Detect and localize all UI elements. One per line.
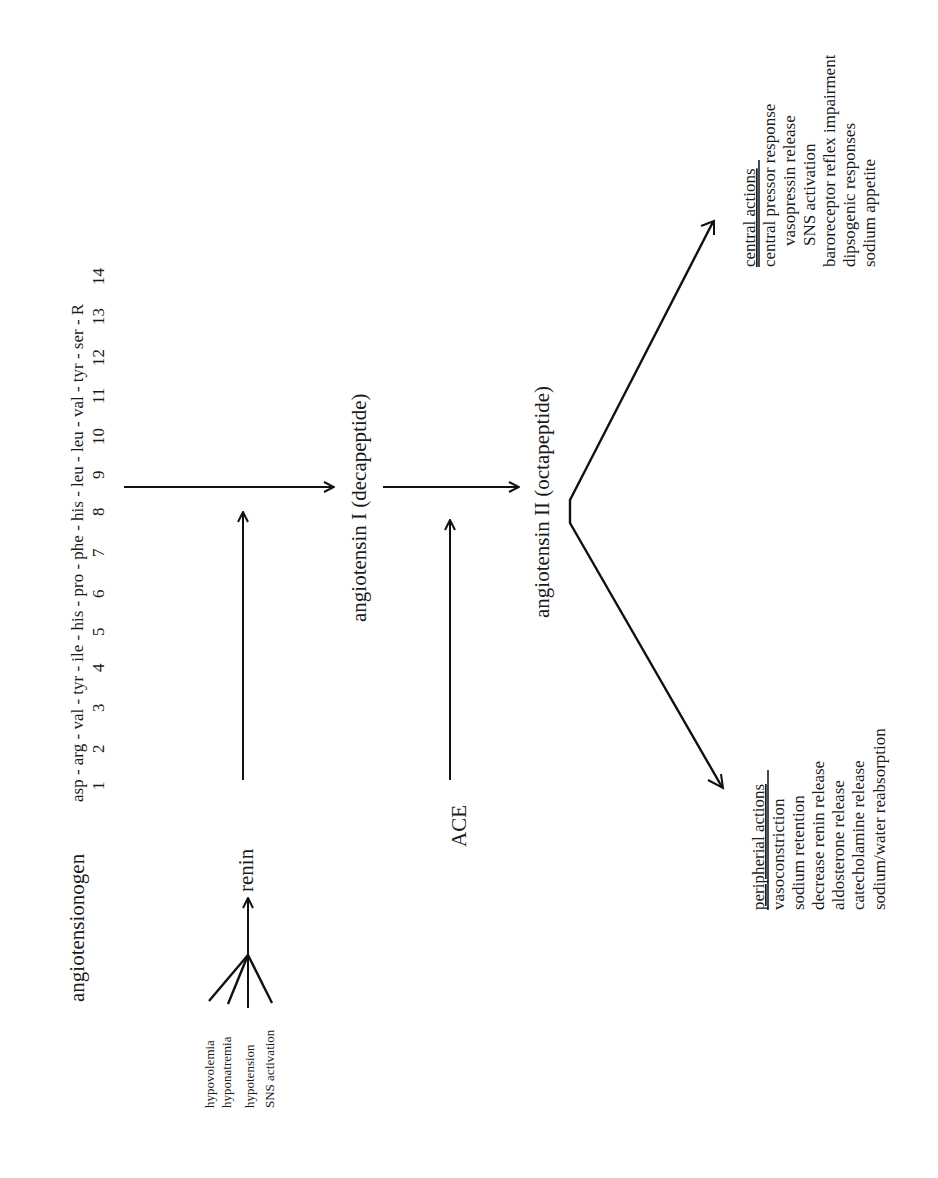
renin-stimuli-arrow — [209, 898, 272, 1008]
svg-text:5: 5 — [89, 628, 108, 637]
angiotensin-2-label: angiotensin II (octapeptide) — [530, 386, 554, 618]
peptide-sequence: asp - arg - val - tyr - ile - his - pro … — [68, 268, 108, 803]
peripheral-action-item: sodium retention — [789, 795, 808, 910]
stimulus-sns-activation: SNS activation — [262, 1029, 277, 1108]
svg-text:14: 14 — [89, 268, 108, 286]
svg-text:8: 8 — [89, 508, 108, 517]
peptide-residues: asp - arg - val - tyr - ile - his - pro … — [68, 303, 87, 802]
svg-text:10: 10 — [89, 428, 108, 445]
svg-text:3: 3 — [89, 704, 108, 713]
angiotensinogen-label: angiotensionogen — [65, 853, 89, 1002]
peripheral-action-item: vasoconstriction — [769, 798, 788, 910]
renin-label: renin — [234, 848, 258, 892]
svg-text:7: 7 — [89, 548, 108, 557]
svg-text:6: 6 — [89, 590, 108, 599]
stimulus-hypovolemia: hypovolemia — [202, 1040, 217, 1108]
angiotensin-2-branch — [570, 221, 723, 788]
central-action-item: SNS activation — [800, 143, 819, 246]
svg-text:12: 12 — [89, 349, 108, 366]
svg-text:11: 11 — [89, 388, 108, 404]
central-action-item: vasopressin release — [780, 115, 799, 246]
svg-text:4: 4 — [89, 663, 108, 672]
central-action-item: dipsogenic responses — [840, 123, 859, 267]
peripheral-action-item: catecholamine release — [849, 760, 868, 910]
peripheral-action-item: decrease renin release — [809, 761, 828, 910]
renin-stimuli-list: hypovolemia hyponatremia hypotension SNS… — [202, 1029, 277, 1108]
peripheral-action-item: aldosterone release — [829, 780, 848, 910]
peripheral-actions: peripherial actions vasoconstriction sod… — [749, 728, 889, 910]
svg-text:2: 2 — [89, 745, 108, 754]
raas-diagram: angiotensionogen asp - arg - val - tyr -… — [0, 0, 938, 1178]
angiotensin-1-label: angiotensin I (decapeptide) — [347, 393, 371, 622]
central-action-item: sodium appetite — [860, 159, 879, 267]
central-action-item: central pressor response — [760, 104, 779, 267]
svg-text:9: 9 — [89, 471, 108, 480]
peptide-positions: 1 2 3 4 5 6 7 8 9 10 11 12 13 14 — [89, 268, 108, 791]
ace-label: ACE — [447, 805, 471, 847]
central-actions-title: central actions — [740, 168, 759, 267]
central-actions: central actions central pressor response… — [740, 54, 879, 267]
svg-text:13: 13 — [89, 308, 108, 325]
peripheral-actions-title: peripherial actions — [749, 784, 768, 910]
stimulus-hypotension: hypotension — [242, 1044, 257, 1108]
stimulus-hyponatremia: hyponatremia — [219, 1036, 234, 1108]
central-action-item: baroreceptor reflex impairment — [820, 54, 839, 267]
svg-text:1: 1 — [89, 782, 108, 791]
peripheral-action-item: sodium/water reabsorption — [870, 728, 889, 910]
